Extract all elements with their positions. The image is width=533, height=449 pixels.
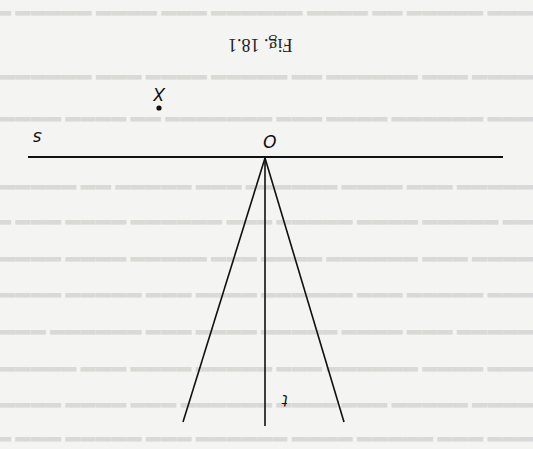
figure-page: ▬▬▬ ▬▬▬▬▬ ▬▬ ▬▬▬▬ ▬▬▬▬▬▬ ▬▬▬ ▬▬▬▬ ▬▬▬▬▬ … bbox=[0, 0, 533, 449]
label-origin: O bbox=[263, 131, 276, 151]
point-x-dot bbox=[156, 105, 161, 110]
label-line-t: t bbox=[282, 391, 288, 409]
ray-right bbox=[265, 158, 344, 422]
ray-left bbox=[183, 158, 265, 422]
geometry-diagram bbox=[0, 0, 533, 449]
label-line-s: s bbox=[33, 128, 42, 148]
figure-caption: Fig. 18.1 bbox=[228, 34, 293, 55]
label-point-x: X bbox=[153, 84, 165, 104]
